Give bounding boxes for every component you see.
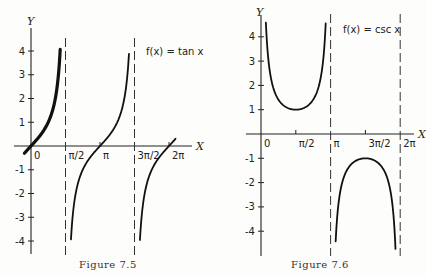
chart1-x-tick-label: π	[103, 150, 109, 161]
chart2-figure-caption: Figure 7.6	[291, 259, 349, 270]
chart2-x-tick-label: π	[334, 138, 340, 149]
chart2-y-tick-label: -4	[245, 226, 255, 237]
chart2-curve-csc-branch-2	[336, 158, 396, 249]
chart1-y-tick-label: 4	[19, 46, 25, 57]
chart1-y-axis-label: Y	[27, 15, 36, 28]
chart1-y-tick-label: 2	[19, 93, 25, 104]
chart1-y-tick-label: -2	[15, 188, 25, 199]
chart1-y-tick-label: 1	[19, 117, 25, 128]
chart2-y-tick-label: -3	[245, 201, 255, 212]
chart1-x-tick-label: 3π/2	[138, 150, 160, 161]
chart2-y-tick-label: 3	[249, 56, 255, 67]
chart1-x-tick-label: π/2	[69, 150, 85, 161]
chart2-y-tick-label: 4	[249, 31, 255, 42]
chart1-y-tick-label: -4	[15, 236, 25, 247]
chart2-x-tick-label: 0	[264, 138, 270, 149]
figure-panel: XY4321-1-2-3-40π/2π3π/22πf(x) = tan xFig…	[0, 0, 426, 277]
chart1-curve-tan-branch-1	[24, 49, 60, 153]
chart1-y-tick-label: -3	[15, 212, 25, 223]
chart1-y-tick-label: 3	[19, 69, 25, 80]
chart2-x-tick-label: π/2	[299, 138, 315, 149]
chart1-function-label: f(x) = tan x	[146, 46, 204, 57]
chart1-x-tick-label: 0	[34, 150, 40, 161]
chart1-x-tick-label: 2π	[172, 150, 184, 161]
chart1-x-axis-label: X	[195, 140, 205, 153]
chart2-y-tick-label: -2	[245, 177, 255, 188]
chart2-function-label: f(x) = csc x	[343, 24, 400, 35]
chart1-curve-tan-branch-2	[71, 54, 129, 239]
chart2-x-tick-label: 2π	[403, 138, 415, 149]
chart2-y-tick-label: 2	[249, 80, 255, 91]
chart2-y-tick-label: 1	[249, 104, 255, 115]
chart2-x-axis-label: X	[417, 128, 426, 141]
chart1-y-tick-label: -1	[15, 164, 25, 175]
chart1-figure-caption: Figure 7.5	[79, 259, 137, 270]
chart2-curve-csc-branch-1	[266, 23, 326, 110]
chart2-x-tick-label: 3π/2	[368, 138, 390, 149]
chart2-y-tick-label: -1	[245, 153, 255, 164]
chart2-y-axis-label: Y	[256, 6, 265, 19]
